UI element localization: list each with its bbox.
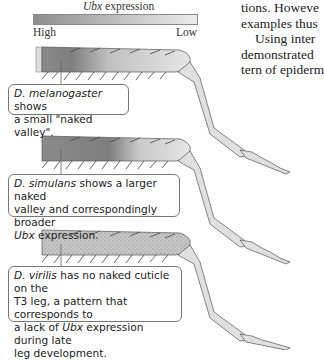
species-name: D. simulans bbox=[14, 177, 76, 189]
gene-name: Ubx bbox=[14, 229, 35, 241]
gene-name: Ubx bbox=[62, 321, 83, 333]
callout-text: leg development. bbox=[14, 347, 107, 359]
species-name: D. melanogaster bbox=[14, 87, 102, 99]
callout-text: a lack of bbox=[14, 321, 62, 333]
callout-virilis: D. virilis has no naked cuticle on the T… bbox=[8, 266, 182, 322]
callout-simulans: D. simulans shows a larger naked valley … bbox=[8, 174, 180, 217]
callout-melanogaster: D. melanogaster shows a small "naked val… bbox=[8, 84, 129, 115]
species-name: D. virilis bbox=[14, 269, 57, 281]
callout-text: T3 leg, a pattern that corresponds to bbox=[14, 295, 127, 320]
callout-text: shows bbox=[14, 100, 47, 112]
callout-text: expression. bbox=[35, 229, 99, 241]
